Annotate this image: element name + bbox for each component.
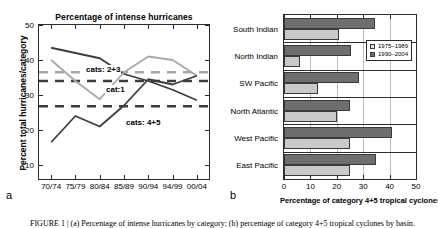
panel-a-x-tick-mark bbox=[197, 25, 198, 29]
panel-b-x-tick-mark bbox=[363, 175, 364, 179]
panel-a-x-tick-label: 94/99 bbox=[163, 182, 183, 191]
panel-a-x-tick-mark bbox=[100, 25, 101, 29]
panel-a-x-tick-mark bbox=[51, 175, 52, 179]
panel-b-x-tick-label: 40 bbox=[385, 182, 394, 191]
panel-a-y-tick-mark bbox=[39, 165, 43, 166]
panel-b-bar bbox=[284, 165, 350, 176]
panel-a-x-tick-mark bbox=[173, 175, 174, 179]
panel-a-x-tick-label: 75/79 bbox=[65, 182, 85, 191]
panel-b-legend-row: 1990–2004 bbox=[370, 51, 408, 59]
panel-a-y-tick-label: 50 bbox=[14, 21, 34, 30]
figure-caption: FIGURE 1 | (a) Percentage of intense hur… bbox=[30, 219, 420, 228]
panel-b-legend-label: 1990–2004 bbox=[378, 51, 408, 59]
panel-a-y-tick-mark bbox=[39, 95, 43, 96]
panel-a-y-tick-label: 30 bbox=[14, 91, 34, 100]
panel-b-x-tick-mark bbox=[390, 175, 391, 179]
panel-b-bar bbox=[284, 29, 339, 40]
panel-a-y-tick-mark bbox=[205, 95, 209, 96]
panel-a-x-tick-mark bbox=[197, 175, 198, 179]
panel-b-category-label: South Indian bbox=[220, 24, 278, 33]
panel-a-x-tick-label: 80/84 bbox=[90, 182, 110, 191]
panel-b-category-label: SW Pacific bbox=[220, 79, 278, 88]
panel-b-legend-swatch-icon bbox=[370, 44, 375, 49]
panel-b-bar bbox=[284, 111, 337, 122]
panel-b-x-tick-label: 20 bbox=[332, 182, 341, 191]
panel-b-x-tick-label: 30 bbox=[359, 182, 368, 191]
figure-container: Percentage of intense hurricanes Percent… bbox=[0, 0, 438, 228]
panel-a-y-axis-label: Percent total hurricanes/category bbox=[18, 28, 28, 178]
panel-a-plot-area: cats: 2+3cat:1cats: 4+5 bbox=[38, 24, 210, 180]
panel-b-bar bbox=[284, 138, 350, 149]
panel-b-letter: b bbox=[230, 189, 236, 201]
panel-a-y-tick-mark bbox=[205, 25, 209, 26]
panel-b-row-separator bbox=[284, 97, 416, 98]
panel-b-x-tick-label: 50 bbox=[412, 182, 421, 191]
panel-a-x-tick-label: 85/89 bbox=[114, 182, 134, 191]
panel-a-x-tick-label: 70/74 bbox=[41, 182, 61, 191]
panel-a-y-tick-mark bbox=[39, 130, 43, 131]
panel-b-bar bbox=[284, 18, 375, 29]
panel-b-legend: 1975–19891990–2004 bbox=[366, 40, 412, 61]
panel-a-x-tick-mark bbox=[124, 25, 125, 29]
panel-b-x-tick-label: 0 bbox=[282, 182, 286, 191]
panel-b-x-tick-mark bbox=[284, 175, 285, 179]
panel-b-x-tick-mark bbox=[363, 15, 364, 19]
panel-a-x-tick-mark bbox=[148, 175, 149, 179]
panel-a-x-tick-mark bbox=[51, 25, 52, 29]
panel-a-x-tick-mark bbox=[148, 25, 149, 29]
panel-a-curve-label-cat23: cats: 2+3 bbox=[85, 65, 121, 74]
panel-b-x-tick-mark bbox=[284, 15, 285, 19]
panel-a-letter: a bbox=[6, 189, 12, 201]
panel-b-row-separator bbox=[284, 70, 416, 71]
panel-a-x-tick-mark bbox=[100, 175, 101, 179]
panel-a-line-chart: Percentage of intense hurricanes Percent… bbox=[0, 0, 220, 205]
panel-b-legend-swatch-icon bbox=[370, 52, 375, 57]
panel-b-category-label: East Pacific bbox=[220, 161, 278, 170]
panel-b-bar bbox=[284, 83, 318, 94]
panel-a-curve-label-cat45: cats: 4+5 bbox=[125, 118, 161, 127]
panel-b-category-label: North Atlantic bbox=[220, 106, 278, 115]
panel-a-y-tick-mark bbox=[39, 25, 43, 26]
panel-b-legend-row: 1975–1989 bbox=[370, 43, 408, 51]
panel-b-x-tick-mark bbox=[310, 15, 311, 19]
panel-b-x-tick-mark bbox=[337, 175, 338, 179]
panel-a-y-tick-label: 40 bbox=[14, 56, 34, 65]
panel-a-x-tick-mark bbox=[75, 175, 76, 179]
panel-a-x-tick-mark bbox=[124, 175, 125, 179]
panel-a-x-tick-mark bbox=[173, 25, 174, 29]
panel-a-y-tick-mark bbox=[205, 130, 209, 131]
panel-b-x-tick-mark bbox=[416, 175, 417, 179]
panel-b-plot-area bbox=[283, 14, 417, 180]
panel-a-title: Percentage of intense hurricanes bbox=[34, 12, 214, 22]
panel-b-x-tick-mark bbox=[310, 175, 311, 179]
panel-b-bar bbox=[284, 127, 392, 138]
panel-a-y-tick-label: 20 bbox=[14, 126, 34, 135]
panel-b-x-axis-label: Percentage of category 4+5 tropical cycl… bbox=[280, 196, 430, 205]
panel-a-y-tick-mark bbox=[39, 60, 43, 61]
panel-b-bar bbox=[284, 72, 359, 83]
panel-b-bar bbox=[284, 100, 350, 111]
panel-b-row-separator bbox=[284, 152, 416, 153]
panel-b-bar bbox=[284, 56, 300, 67]
panel-a-x-tick-label: 00/04 bbox=[187, 182, 207, 191]
panel-a-x-tick-label: 90/94 bbox=[138, 182, 158, 191]
panel-a-y-tick-label: 10 bbox=[14, 161, 34, 170]
panel-b-x-tick-mark bbox=[416, 15, 417, 19]
panel-a-y-tick-mark bbox=[205, 60, 209, 61]
panel-b-x-tick-mark bbox=[337, 15, 338, 19]
panel-b-category-label: West Pacific bbox=[220, 134, 278, 143]
panel-b-row-separator bbox=[284, 124, 416, 125]
panel-b-bar bbox=[284, 45, 351, 56]
panel-b-bar bbox=[284, 154, 376, 165]
panel-a-x-tick-mark bbox=[75, 25, 76, 29]
panel-b-bar-chart: South IndianNorth IndianSW PacificNorth … bbox=[220, 0, 438, 205]
panel-b-legend-label: 1975–1989 bbox=[378, 43, 408, 51]
panel-b-x-tick-mark bbox=[390, 15, 391, 19]
panel-b-x-tick-label: 10 bbox=[306, 182, 315, 191]
panel-a-svg bbox=[39, 25, 209, 179]
panel-a-curve-label-cat1: cat:1 bbox=[105, 85, 126, 94]
panel-b-category-label: North Indian bbox=[220, 52, 278, 61]
panel-a-y-tick-mark bbox=[205, 165, 209, 166]
